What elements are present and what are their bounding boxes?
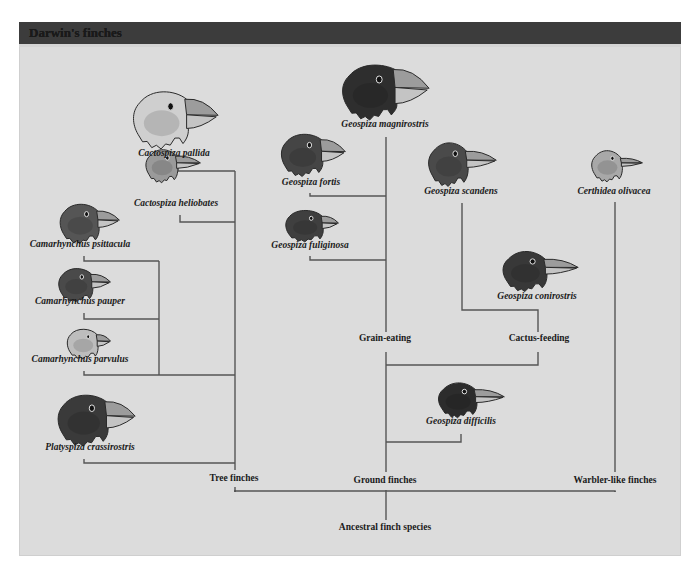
species-label-camarhynchus-psittacula: Camarhynchus psittacula (30, 239, 131, 249)
tree-branch (235, 491, 615, 492)
tree-branch (84, 256, 159, 261)
species-label-camarhynchus-pauper: Camarhynchus pauper (35, 296, 125, 306)
bird-head-cactospiza-pallida (129, 86, 219, 151)
bird-head-certhidea-olivacea (589, 147, 643, 183)
species-label-cactospiza-pallida: Cactospiza pallida (138, 148, 210, 158)
group-label-ancestral-finch-species: Ancestral finch species (337, 522, 433, 532)
group-label-warbler-like-finches: Warbler-like finches (572, 475, 659, 485)
tree-branch (386, 434, 461, 442)
species-label-cactospiza-heliobates: Cactospiza heliobates (134, 198, 218, 208)
bird-head-geospiza-fortis (278, 130, 346, 178)
species-label-geospiza-conirostris: Geospiza conirostris (497, 291, 576, 301)
species-label-platyspiza-crassirostris: Platyspiza crassirostris (45, 442, 134, 452)
bird-head-geospiza-scandens (425, 138, 497, 188)
species-label-geospiza-fortis: Geospiza fortis (282, 177, 340, 187)
group-label-cactus-feeding: Cactus-feeding (507, 333, 572, 343)
bird-head-geospiza-difficilis (435, 379, 505, 419)
tree-branch (310, 193, 386, 196)
bird-head-geospiza-fuliginosa (283, 207, 339, 243)
species-label-geospiza-scandens: Geospiza scandens (424, 186, 498, 196)
group-label-ground-finches: Ground finches (352, 475, 419, 485)
group-label-tree-finches: Tree finches (208, 473, 261, 483)
tree-branch (84, 313, 159, 319)
species-label-geospiza-magnirostris: Geospiza magnirostris (341, 119, 428, 129)
tree-branch (84, 459, 235, 463)
species-label-geospiza-difficilis: Geospiza difficilis (426, 416, 496, 426)
bird-head-platyspiza-crassirostris (54, 390, 136, 448)
species-label-certhidea-olivacea: Certhidea olivacea (577, 186, 650, 196)
species-label-camarhynchus-parvulus: Camarhynchus parvulus (32, 354, 129, 364)
species-label-geospiza-fuliginosa: Geospiza fuliginosa (271, 240, 348, 250)
bird-head-geospiza-conirostris (499, 247, 579, 293)
tree-branch (386, 352, 538, 365)
bird-head-geospiza-magnirostris (338, 60, 430, 122)
tree-branch (180, 215, 235, 222)
group-label-grain-eating: Grain-eating (357, 333, 413, 343)
tree-branch (310, 256, 386, 260)
